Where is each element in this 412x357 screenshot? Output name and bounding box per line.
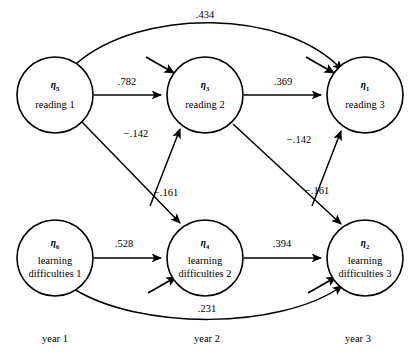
node-label-line1: learning <box>348 255 383 266</box>
edge-coefficient-reading2-reading3: .369 <box>274 76 292 87</box>
node-label-line2: difficulties 1 <box>28 268 81 279</box>
edge-ld2-ld3: .394 <box>244 238 321 258</box>
disturbance-arrow-eta2 <box>308 277 336 293</box>
node-label-line1: learning <box>188 255 223 266</box>
disturbance-arrow-eta3 <box>146 57 174 73</box>
edge-coefficient-ld1-ld2: .528 <box>115 238 133 249</box>
path-diagram-canvas: .434 .782 .369 −.142 −.142 −.161 <box>0 0 412 357</box>
time-axis-label-year2: year 2 <box>194 333 220 344</box>
time-axis-label-year1: year 1 <box>42 333 68 344</box>
node-label-line1: reading 3 <box>345 99 384 110</box>
node-eta2-learning-difficulties3[interactable]: η2 learning difficulties 3 <box>327 220 403 296</box>
edge-reading1-reading2: .782 <box>94 76 161 95</box>
node-eta4-learning-difficulties2[interactable]: η4 learning difficulties 2 <box>167 220 243 296</box>
node-label-line1: reading 2 <box>185 99 224 110</box>
edge-coefficient-ld2-reading3: −.142 <box>287 134 311 145</box>
edge-coefficient-reading1-reading2: .782 <box>118 76 136 87</box>
disturbance-arrow-eta4 <box>148 277 176 293</box>
edge-coefficient-ld1-reading2: −.142 <box>124 128 148 139</box>
node-circle[interactable] <box>167 57 243 133</box>
node-eta3-reading2[interactable]: η3 reading 2 <box>167 57 243 133</box>
node-eta1-reading3[interactable]: η1 reading 3 <box>327 57 403 133</box>
edge-coefficient-ld1-ld3: .231 <box>198 303 216 314</box>
node-circle[interactable] <box>327 57 403 133</box>
node-eta6-learning-difficulties1[interactable]: η6 learning difficulties 1 <box>17 220 93 296</box>
edge-coefficient-reading1-ld2: −.161 <box>154 187 178 198</box>
node-label-line2: difficulties 3 <box>338 268 391 279</box>
path-diagram-svg: .434 .782 .369 −.142 −.142 −.161 <box>0 0 412 357</box>
node-label-line1: reading 1 <box>35 99 74 110</box>
edge-ld1-ld2: .528 <box>94 238 161 258</box>
node-eta5-reading1[interactable]: η5 reading 1 <box>17 57 93 133</box>
edge-coefficient-reading1-reading3: .434 <box>196 9 215 20</box>
node-label-line2: difficulties 2 <box>178 268 231 279</box>
edge-coefficient-ld2-ld3: .394 <box>273 238 292 249</box>
node-circle[interactable] <box>17 57 93 133</box>
edge-reading2-reading3: .369 <box>244 76 321 95</box>
time-axis-label-year3: year 3 <box>345 333 371 344</box>
edge-coefficient-reading2-ld3: −.161 <box>305 185 329 196</box>
node-label-line1: learning <box>38 255 73 266</box>
